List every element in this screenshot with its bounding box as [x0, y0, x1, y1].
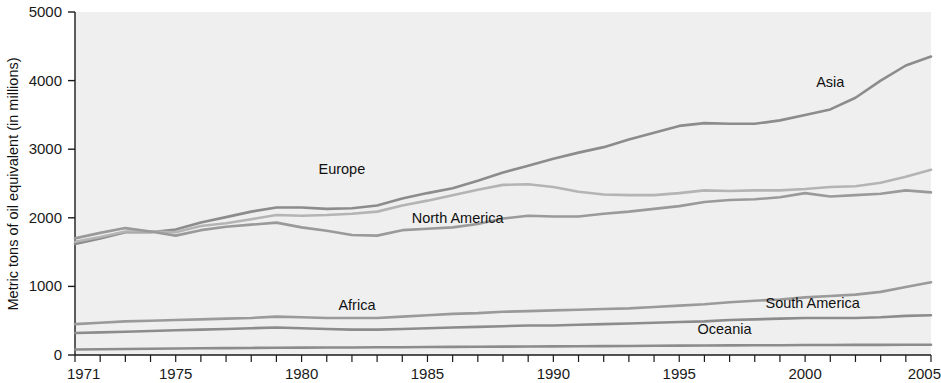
x-tick-label: 1985: [411, 365, 444, 382]
y-axis-ticks: 010002000300040005000: [29, 3, 75, 363]
line-chart: 010002000300040005000 197119751980198519…: [0, 0, 941, 383]
y-tick-label: 3000: [29, 140, 62, 157]
y-tick-label: 5000: [29, 3, 62, 20]
series-label-south-america: South America: [766, 295, 861, 311]
series-label-north-america: North America: [412, 210, 505, 226]
y-tick-label: 1000: [29, 277, 62, 294]
series-label-europe: Europe: [318, 161, 365, 177]
x-tick-label: 2005: [908, 365, 941, 382]
x-tick-label: 1971: [67, 365, 100, 382]
x-tick-label: 1990: [537, 365, 570, 382]
chart-figure: 010002000300040005000 197119751980198519…: [0, 0, 941, 383]
series-label-asia: Asia: [816, 74, 845, 90]
series-label-oceania: Oceania: [698, 321, 753, 337]
y-tick-label: 0: [54, 346, 62, 363]
y-tick-label: 4000: [29, 72, 62, 89]
x-tick-label: 2000: [788, 365, 821, 382]
y-axis-title: Metric tons of oil equivalent (in millio…: [5, 57, 21, 310]
x-tick-label: 1995: [663, 365, 696, 382]
y-tick-label: 2000: [29, 209, 62, 226]
x-tick-label: 1975: [159, 365, 192, 382]
series-label-africa: Africa: [338, 297, 376, 313]
x-tick-label: 1980: [285, 365, 318, 382]
x-axis-ticks: 19711975198019851990199520002005: [67, 355, 941, 382]
